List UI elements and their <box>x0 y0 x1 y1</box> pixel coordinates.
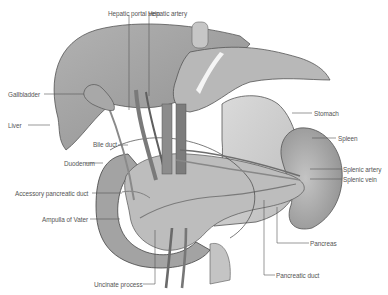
label-bile-duct: Bile duct <box>93 141 117 148</box>
label-stomach: Stomach <box>314 110 339 117</box>
aorta <box>162 104 172 174</box>
label-splenic-vein: Splenic vein <box>343 176 377 183</box>
vena-cava <box>176 104 186 174</box>
label-gallbladder: Gallbladder <box>8 91 40 98</box>
label-duodenum: Duodenum <box>64 160 95 167</box>
label-ampulla-of-vater: Ampulla of Vater <box>42 216 88 223</box>
label-accessory-pancreatic-duct: Accessory pancreatic duct <box>15 190 88 197</box>
label-uncinate-process: Uncinate process <box>94 281 143 288</box>
label-pancreatic-duct: Pancreatic duct <box>276 272 319 279</box>
label-pancreas: Pancreas <box>310 240 337 247</box>
label-hepatic-artery: Hepatic artery <box>148 10 187 17</box>
label-spleen: Spleen <box>338 135 358 142</box>
diagram-artwork <box>0 0 388 295</box>
label-splenic-artery: Splenic artery <box>343 166 381 173</box>
inferior-vena-cava-top <box>192 22 208 48</box>
anatomy-diagram: Hepatic portal vein Hepatic artery Gallb… <box>0 0 388 295</box>
jejunum <box>210 243 230 284</box>
label-liver: Liver <box>8 122 22 129</box>
